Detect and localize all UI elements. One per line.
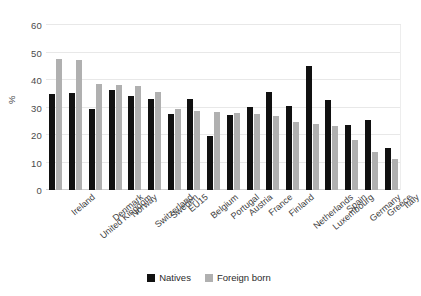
y-tick-60: 60 (31, 20, 42, 31)
bar (345, 125, 351, 190)
bar (392, 159, 398, 190)
bar-group (381, 25, 401, 190)
bar (313, 124, 319, 190)
bar-group (125, 25, 145, 190)
bar (96, 84, 102, 190)
bar-group (243, 25, 263, 190)
bar-group (105, 25, 125, 190)
bar-group (145, 25, 165, 190)
bar (352, 140, 358, 190)
bar (155, 92, 161, 190)
bar (214, 112, 220, 190)
bar-group (283, 25, 303, 190)
bar-group (224, 25, 244, 190)
bar (293, 122, 299, 190)
bar (168, 114, 174, 190)
bar (128, 96, 134, 190)
y-axis-tick-labels: 0102030405060 (12, 25, 42, 190)
y-tick-20: 20 (31, 130, 42, 141)
legend-item[interactable]: Natives (147, 272, 191, 283)
bar (187, 99, 193, 190)
bar-group (184, 25, 204, 190)
legend-swatch-icon (147, 274, 155, 282)
y-tick-30: 30 (31, 102, 42, 113)
bar (135, 86, 141, 190)
bar (109, 90, 115, 190)
bar (89, 109, 95, 190)
bar (175, 109, 181, 190)
legend-label: Foreign born (217, 272, 271, 283)
bar (148, 99, 154, 190)
bar (286, 106, 292, 190)
x-tick-label: Ireland (69, 192, 97, 217)
legend-label: Natives (159, 272, 191, 283)
bar-group (362, 25, 382, 190)
legend-swatch-icon (205, 274, 213, 282)
bar-group (263, 25, 283, 190)
bar (194, 111, 200, 190)
x-axis-tick-labels: IrelandUnited KingdomDenmarkNorwaySwitze… (46, 192, 401, 262)
bar (273, 116, 279, 190)
bar (56, 59, 62, 190)
bar (306, 66, 312, 190)
bar-group (322, 25, 342, 190)
bar-group (302, 25, 322, 190)
bar-group (164, 25, 184, 190)
bar (227, 115, 233, 190)
bar (254, 114, 260, 190)
legend-item[interactable]: Foreign born (205, 272, 271, 283)
bar (116, 85, 122, 190)
y-tick-10: 10 (31, 157, 42, 168)
bar-group (342, 25, 362, 190)
y-axis-title: % (6, 96, 17, 104)
bar-group (204, 25, 224, 190)
y-tick-50: 50 (31, 47, 42, 58)
bar (266, 92, 272, 190)
bar-group (66, 25, 86, 190)
bar (76, 60, 82, 190)
bar (325, 100, 331, 190)
bar (332, 126, 338, 190)
bar (207, 136, 213, 190)
bar (49, 94, 55, 190)
chart-legend: NativesForeign born (0, 272, 418, 283)
bar (385, 148, 391, 190)
bar (69, 93, 75, 190)
bar-group (85, 25, 105, 190)
bar-group (46, 25, 66, 190)
bar (365, 120, 371, 190)
bar (234, 113, 240, 190)
plot-area (46, 25, 401, 190)
bar (372, 152, 378, 191)
y-tick-40: 40 (31, 75, 42, 86)
bar (247, 107, 253, 190)
y-tick-0: 0 (37, 185, 42, 196)
